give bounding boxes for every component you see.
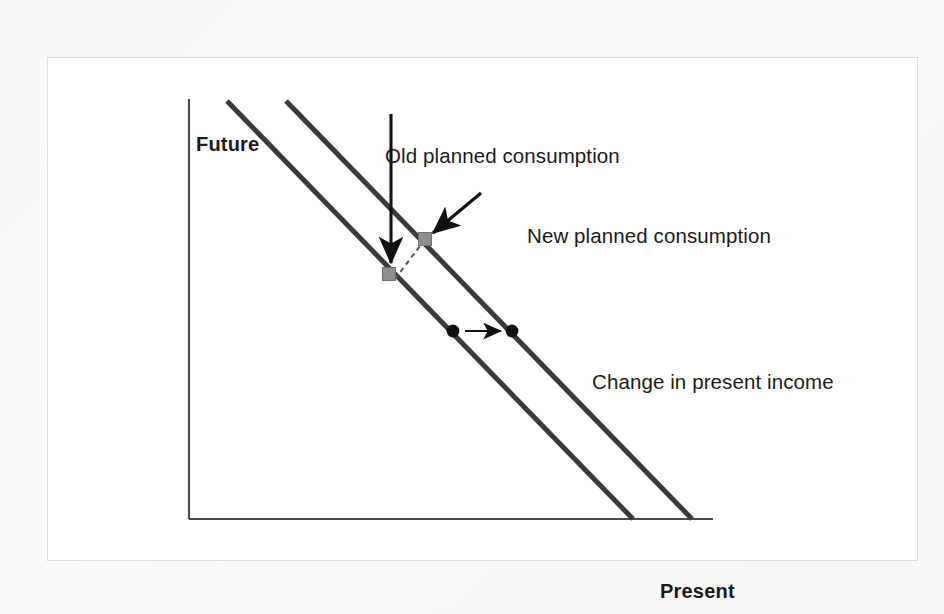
y-axis-label: Future (196, 134, 259, 154)
consumption-shift-dashed-line (395, 246, 420, 279)
new-present-income-marker (506, 325, 519, 338)
new-planned-consumption-marker (419, 233, 432, 246)
change-in-present-income-label: Change in present income (592, 372, 834, 393)
figure-frame: Future Present Old planned consumption N… (47, 57, 918, 561)
old-present-income-marker (447, 325, 460, 338)
figure-page: Future Present Old planned consumption N… (0, 0, 944, 614)
old-planned-consumption-label: Old planned consumption (385, 146, 620, 167)
new-planned-consumption-arrow (433, 193, 481, 233)
x-axis-label: Present (660, 581, 735, 601)
intertemporal-budget-diagram (48, 58, 917, 560)
new-planned-consumption-label: New planned consumption (527, 226, 771, 247)
old-planned-consumption-marker (383, 268, 396, 281)
